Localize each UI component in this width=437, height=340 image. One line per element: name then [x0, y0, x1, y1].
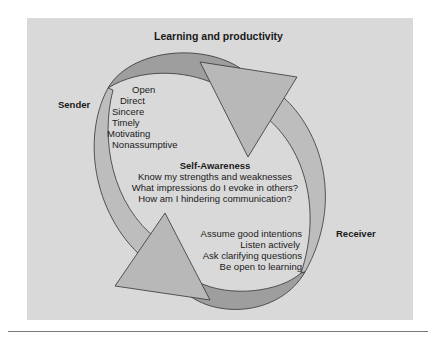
behavior-item: Be open to learning [195, 261, 302, 272]
self-awareness-question: Know my strengths and weaknesses [130, 171, 300, 182]
behavior-item: Listen actively [195, 239, 302, 250]
self-awareness-block: Self-Awareness Know my strengths and wea… [130, 160, 300, 204]
behavior-item: Ask clarifying questions [195, 250, 302, 261]
receiver-behaviors-list: Assume good intentions Listen actively A… [195, 228, 302, 272]
self-awareness-question: How am I hindering communication? [130, 193, 300, 204]
horizontal-divider [8, 331, 428, 332]
diagram-title: Learning and productivity [0, 30, 437, 42]
self-awareness-heading: Self-Awareness [130, 160, 300, 171]
self-awareness-question: What impressions do I evoke in others? [130, 182, 300, 193]
receiver-label: Receiver [336, 228, 376, 239]
sender-qualities-list: Open Direct Sincere Timely Motivating No… [107, 84, 177, 150]
sender-label: Sender [58, 99, 90, 110]
quality-item: Nonassumptive [107, 139, 177, 150]
quality-item: Open [107, 84, 177, 95]
quality-item: Sincere [107, 106, 177, 117]
bottom-arc-band [190, 272, 305, 309]
quality-item: Direct [107, 95, 177, 106]
behavior-item: Assume good intentions [195, 228, 302, 239]
quality-item: Timely [107, 117, 177, 128]
quality-item: Motivating [107, 128, 177, 139]
